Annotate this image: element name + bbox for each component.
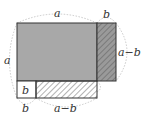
arc-inner — [97, 81, 101, 92]
arc-left-a — [10, 23, 18, 98]
diagram-canvas: a b a−b a b b a−b — [0, 0, 154, 122]
label-bottom-a-minus-b: a−b — [54, 102, 77, 115]
label-top-a: a — [54, 7, 61, 20]
label-inner-b: b — [22, 84, 29, 97]
right-strip-hatch — [97, 23, 116, 81]
label-top-b: b — [103, 8, 110, 21]
main-rectangle — [17, 23, 97, 81]
label-bottom-b: b — [22, 102, 29, 115]
label-left-a: a — [4, 54, 11, 67]
bottom-strip-hatch — [36, 81, 97, 98]
label-right-a-minus-b: a−b — [118, 46, 141, 59]
